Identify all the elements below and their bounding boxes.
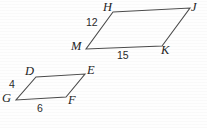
vertex-label-h: H xyxy=(103,1,112,14)
vertex-label-f: F xyxy=(68,94,76,107)
vertex-label-d: D xyxy=(25,65,34,78)
vertex-label-m: M xyxy=(71,40,81,53)
side-length-mh: 12 xyxy=(86,17,98,28)
side-length-mk: 15 xyxy=(117,50,129,61)
side-length-gd: 4 xyxy=(9,79,15,90)
side-length-gf: 6 xyxy=(37,103,43,114)
vertex-label-k: K xyxy=(161,44,169,57)
vertex-label-e: E xyxy=(87,64,95,77)
vertex-label-g: G xyxy=(2,92,11,105)
vertex-label-j: J xyxy=(191,1,197,14)
large-parallelogram-outline xyxy=(86,8,190,49)
geometry-figure: H J K M 12 15 D E F G 4 6 xyxy=(0,0,207,128)
